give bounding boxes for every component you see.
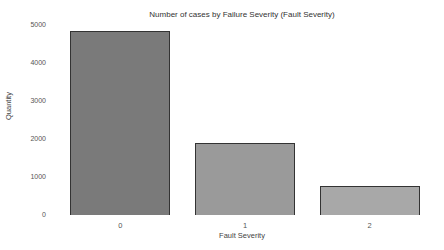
x-axis-label: Fault Severity bbox=[0, 231, 444, 240]
x-tick-label: 0 bbox=[110, 221, 130, 230]
chart-title: Number of cases by Failure Severity (Fau… bbox=[0, 10, 444, 19]
y-tick-label: 4000 bbox=[0, 59, 46, 66]
x-tick-label: 1 bbox=[235, 221, 255, 230]
y-tick-label: 0 bbox=[0, 211, 46, 218]
bar-1 bbox=[195, 143, 295, 215]
bar-2 bbox=[320, 186, 420, 215]
y-tick-label: 5000 bbox=[0, 21, 46, 28]
y-tick-label: 1000 bbox=[0, 173, 46, 180]
bar-0 bbox=[70, 31, 170, 215]
y-tick-label: 3000 bbox=[0, 97, 46, 104]
y-tick-label: 2000 bbox=[0, 135, 46, 142]
x-tick-label: 2 bbox=[360, 221, 380, 230]
